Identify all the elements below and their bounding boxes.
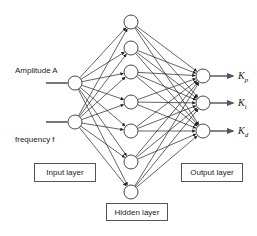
hidden-node bbox=[124, 155, 138, 169]
hidden-node bbox=[124, 65, 138, 79]
hidden-node bbox=[124, 124, 138, 138]
connection-line bbox=[80, 28, 126, 78]
output-node bbox=[196, 124, 210, 138]
output-label-kd: Kd bbox=[238, 125, 248, 139]
kp-symbol: K bbox=[238, 70, 245, 81]
connection-line bbox=[138, 51, 196, 74]
connection-line bbox=[79, 89, 126, 156]
ki-symbol: K bbox=[238, 97, 245, 108]
input-label-frequency: frequency f bbox=[15, 135, 55, 144]
output-node bbox=[196, 96, 210, 110]
hidden-node bbox=[124, 185, 138, 199]
connection-line bbox=[135, 28, 199, 124]
input-layer-label: Input layer bbox=[34, 163, 96, 182]
hidden-node bbox=[124, 95, 138, 109]
network-graph bbox=[0, 0, 257, 236]
kd-sub: d bbox=[245, 131, 249, 139]
output-layer-label: Output layer bbox=[181, 163, 243, 182]
ki-sub: i bbox=[245, 103, 247, 111]
connection-line bbox=[78, 29, 127, 116]
connection-line bbox=[138, 106, 196, 129]
connection-line bbox=[81, 126, 125, 157]
connection-line bbox=[136, 108, 196, 157]
output-label-ki: Ki bbox=[238, 97, 247, 111]
input-node bbox=[68, 76, 82, 90]
kd-symbol: K bbox=[238, 125, 245, 136]
connection-line bbox=[137, 134, 195, 159]
hidden-layer-label: Hidden layer bbox=[106, 203, 168, 221]
input-node bbox=[68, 115, 82, 129]
output-label-kp: Kp bbox=[238, 70, 248, 84]
output-node bbox=[196, 69, 210, 83]
input-label-amplitude: Amplitude A bbox=[15, 66, 58, 75]
kp-sub: p bbox=[245, 76, 249, 84]
hidden-node bbox=[124, 15, 138, 29]
connection-line bbox=[82, 123, 123, 130]
hidden-node bbox=[124, 41, 138, 55]
connection-line bbox=[138, 79, 196, 100]
connection-line bbox=[137, 75, 195, 100]
